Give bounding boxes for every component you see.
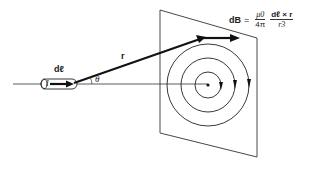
circle-arrow-middle xyxy=(233,80,237,89)
dB-vector-arrowhead xyxy=(230,34,240,42)
eq-vector-fraction: dℓ × r r3 xyxy=(270,10,293,29)
eq-vec-den: r3 xyxy=(277,20,286,29)
current-label: I xyxy=(46,79,49,88)
eq-const-den: 4π xyxy=(254,20,266,29)
eq-const-num: μ0 xyxy=(255,10,265,20)
eq-lhs: dB xyxy=(229,15,241,25)
eq-vec-num: dℓ × r xyxy=(270,10,293,20)
eq-equals: = xyxy=(244,15,249,25)
circle-arrow-inner xyxy=(219,82,223,90)
biot-savart-equation: dB = μ0 4π dℓ × r r3 xyxy=(229,10,295,29)
center-dot xyxy=(206,83,209,86)
r-label: r xyxy=(121,51,125,61)
eq-constant-fraction: μ0 4π xyxy=(254,10,266,29)
circle-arrow-outer xyxy=(247,79,251,88)
dl-label: dℓ xyxy=(54,64,64,74)
r-vector-shaft xyxy=(74,39,200,83)
theta-label: θ xyxy=(95,74,99,84)
